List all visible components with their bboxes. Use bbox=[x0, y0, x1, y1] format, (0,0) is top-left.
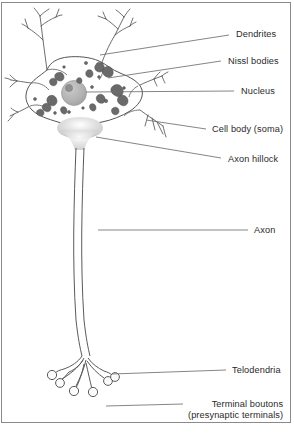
nucleolus bbox=[65, 84, 72, 91]
leader-terminal-boutons bbox=[106, 404, 183, 406]
label-dendrites-text: Dendrites bbox=[236, 29, 276, 39]
label-telodendria: Telodendria bbox=[232, 365, 281, 376]
leader-dendrites bbox=[100, 35, 229, 55]
label-axon-hillock: Axon hillock bbox=[228, 154, 278, 165]
label-dendrites: Dendrites bbox=[236, 29, 276, 40]
label-terminal-boutons-subtext: (presynaptic terminals) bbox=[188, 410, 283, 421]
terminal-boutons bbox=[47, 370, 119, 396]
leader-nissl-bodies bbox=[108, 61, 221, 78]
label-cell-body-soma-text: Cell body (soma) bbox=[212, 124, 283, 134]
nucleus bbox=[62, 81, 87, 106]
label-telodendria-text: Telodendria bbox=[232, 365, 281, 375]
leader-cell-body bbox=[146, 120, 206, 129]
axon-hillock-funnel bbox=[60, 130, 99, 150]
label-cell-body-soma: Cell body (soma) bbox=[212, 124, 283, 135]
neuron-diagram-figure: Dendrites Nissl bodies Nucleus Cell body… bbox=[0, 0, 294, 437]
label-nucleus: Nucleus bbox=[241, 86, 275, 97]
axon-shaft bbox=[74, 148, 90, 356]
label-nucleus-text: Nucleus bbox=[241, 86, 275, 96]
label-nissl-bodies: Nissl bodies bbox=[228, 56, 279, 67]
label-terminal-boutons-text: Terminal boutons bbox=[212, 399, 284, 409]
label-terminal-boutons: Terminal boutons (presynaptic terminals) bbox=[188, 399, 283, 421]
label-axon: Axon bbox=[254, 225, 275, 236]
label-axon-text: Axon bbox=[254, 225, 275, 235]
label-axon-hillock-text: Axon hillock bbox=[228, 154, 278, 164]
leader-telodendria bbox=[112, 370, 226, 374]
leader-axon-hillock bbox=[96, 137, 221, 158]
label-nissl-bodies-text: Nissl bodies bbox=[228, 56, 279, 66]
